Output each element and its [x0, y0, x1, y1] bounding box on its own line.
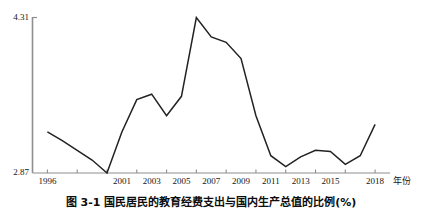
x-axis-tick-label: 2011: [257, 176, 285, 186]
x-axis-tick-label: 1996: [33, 176, 61, 186]
x-axis-tick-label: 2003: [138, 176, 166, 186]
x-axis-tick-label: 2001: [108, 176, 136, 186]
data-line-education-expenditure: [47, 18, 375, 174]
x-axis-tick-label: 2015: [316, 176, 344, 186]
y-axis-max-label: 4.31: [0, 12, 29, 22]
x-axis-tick-label: 2013: [287, 176, 315, 186]
x-axis-tick-label: 2009: [227, 176, 255, 186]
axes-group: [33, 17, 391, 173]
figure-caption: 图 3-1 国民居民的教育经费支出与国内生产总值的比例(%): [0, 196, 422, 209]
series-group: [47, 18, 375, 174]
x-axis-title: 年份: [393, 176, 411, 186]
x-axis-tick-label: 2018: [361, 176, 389, 186]
x-axis-tick-label: 2005: [167, 176, 195, 186]
y-axis-min-label: 2.87: [0, 167, 29, 177]
figure-container: 4.31 2.87 199620012003200520072009201120…: [0, 0, 422, 209]
x-axis-tick-label: 2007: [197, 176, 225, 186]
